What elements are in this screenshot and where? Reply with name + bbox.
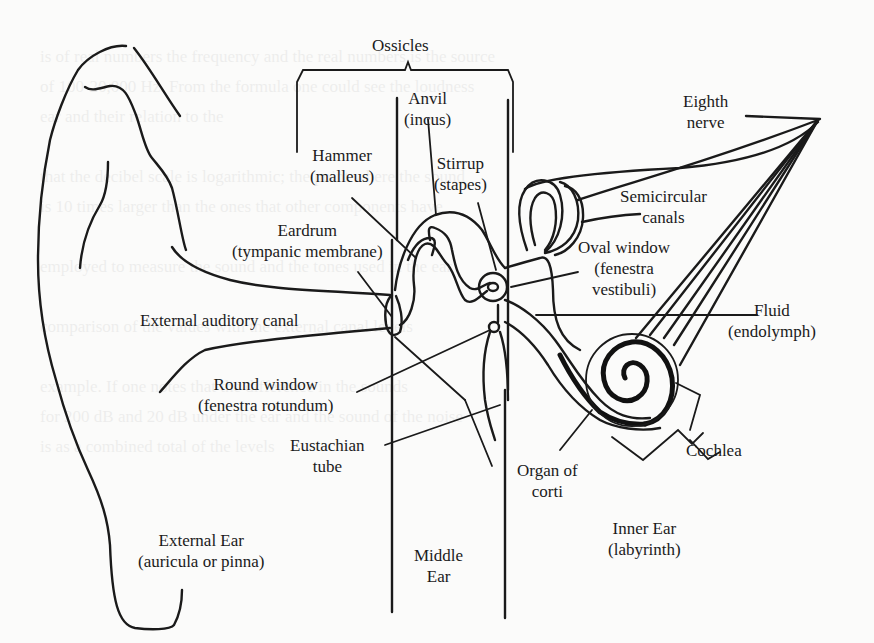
ear-anatomy-diagram: is of real numbers the frequency and the… (0, 0, 874, 643)
label-semicircular-canals: Semicircularcanals (620, 186, 707, 228)
label-stirrup: Stirrup(stapes) (434, 153, 487, 195)
label-anvil: Anvil(incus) (404, 88, 451, 130)
label-round-window: Round window(fenestra rotundum) (198, 374, 333, 416)
label-hammer: Hammer(malleus) (310, 145, 374, 187)
label-ossicles: Ossicles (372, 35, 429, 56)
label-external-ear: External Ear(auricula or pinna) (138, 530, 265, 572)
label-middle-ear: MiddleEar (414, 545, 463, 587)
label-fluid: Fluid(endolymph) (728, 300, 816, 342)
label-oval-window: Oval window(fenestravestibuli) (578, 237, 670, 300)
label-eighth-nerve: Eighthnerve (683, 91, 728, 133)
label-eustachian-tube: Eustachiantube (290, 435, 365, 477)
label-external-auditory-canal: External auditory canal (140, 310, 299, 331)
label-cochlea: Cochlea (686, 440, 742, 461)
label-inner-ear: Inner Ear(labyrinth) (608, 518, 681, 560)
label-eardrum: Eardrum(tympanic membrane) (232, 220, 383, 262)
label-organ-of-corti: Organ ofcorti (517, 460, 578, 502)
